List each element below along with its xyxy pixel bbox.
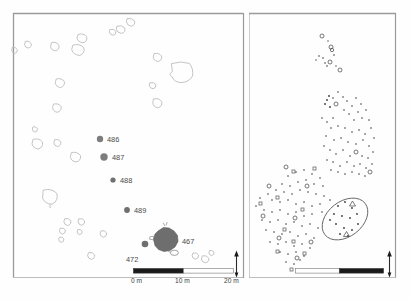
scale-tick-20: 20 m: [224, 277, 239, 284]
figure-container: 486 487 488 489 467 472 0 m 10 m 20 m: [0, 0, 411, 300]
scale-segment-filled: [134, 269, 184, 274]
figure-background: [0, 0, 411, 300]
scale-segment-empty: [184, 269, 234, 274]
right-scale-segment-filled: [340, 269, 384, 274]
right-scale-bar: [296, 269, 384, 274]
feature-dot-487: [100, 153, 107, 160]
site-plan-figure: 486 487 488 489 467 472 0 m 10 m 20 m: [0, 0, 411, 300]
right-scale-segment-empty: [296, 269, 340, 274]
feature-label-488: 488: [120, 176, 132, 185]
scale-tick-0: 0 m: [131, 277, 142, 284]
feature-label-472: 472: [126, 255, 138, 264]
feature-label-487: 487: [112, 153, 124, 162]
feature-label-486: 486: [107, 135, 119, 144]
feature-dot-488: [110, 177, 115, 182]
feature-dot-472: [142, 241, 149, 248]
feature-label-489: 489: [134, 206, 146, 215]
feature-dot-486: [97, 136, 103, 142]
feature-label-467: 467: [182, 237, 194, 246]
feature-dot-489: [124, 207, 130, 213]
scale-tick-10: 10 m: [175, 277, 190, 284]
